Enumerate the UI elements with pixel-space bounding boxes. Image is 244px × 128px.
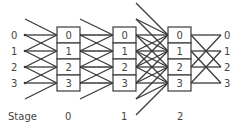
- stage0-cell-1: 1: [57, 43, 80, 59]
- input-label-0: 0: [11, 30, 17, 41]
- stage-label-0: 0: [65, 111, 71, 122]
- cell-label: 3: [177, 78, 183, 89]
- stage2-cell-1: 1: [168, 43, 191, 59]
- stage0-cell-0: 0: [57, 27, 80, 43]
- cell-label: 2: [66, 62, 72, 73]
- cell-label: 2: [122, 62, 128, 73]
- wire-stage1-row0: [80, 19, 113, 35]
- cell-label: 3: [122, 78, 128, 89]
- wire-stage2-row0: [136, 3, 168, 35]
- stage1-cell-1: 1: [113, 43, 136, 59]
- stage1-cell-2: 2: [113, 59, 136, 75]
- output-label-1: 1: [224, 46, 230, 57]
- input-label-2: 2: [11, 62, 17, 73]
- stage2-cell-3: 3: [168, 75, 191, 91]
- output-label-0: 0: [224, 30, 230, 41]
- output-label-3: 3: [224, 78, 230, 89]
- stage-cells: 012301230123: [57, 27, 191, 91]
- cell-label: 2: [177, 62, 183, 73]
- output-label-2: 2: [224, 62, 230, 73]
- cell-label: 0: [122, 30, 128, 41]
- stage-label-1: 1: [121, 111, 127, 122]
- network-diagram: 012301230123 0 1 2 3 0 1 2 3 Stage 0 1 2: [0, 0, 244, 128]
- stage2-cell-0: 0: [168, 27, 191, 43]
- input-label-3: 3: [11, 78, 17, 89]
- cell-label: 1: [66, 46, 72, 57]
- stage0-cell-3: 3: [57, 75, 80, 91]
- junction-dot: [24, 82, 27, 85]
- wire-stage2-row3: [136, 83, 168, 115]
- stage-label-2: 2: [177, 111, 183, 122]
- wire-stage1-row3: [80, 83, 113, 99]
- cell-label: 1: [177, 46, 183, 57]
- wire-stage0-row0: [25, 19, 57, 35]
- input-label-1: 1: [11, 46, 17, 57]
- stage1-cell-0: 0: [113, 27, 136, 43]
- wire-stage0-row3: [25, 83, 57, 99]
- cell-label: 1: [122, 46, 128, 57]
- cell-label: 0: [177, 30, 183, 41]
- cell-label: 0: [66, 30, 72, 41]
- cell-label: 3: [66, 78, 72, 89]
- stage2-cell-2: 2: [168, 59, 191, 75]
- wire-stage2-row3: [136, 83, 168, 99]
- stage0-cell-2: 2: [57, 59, 80, 75]
- stage1-cell-3: 3: [113, 75, 136, 91]
- wire-stage2-row0: [136, 19, 168, 35]
- stage-axis-label: Stage: [8, 111, 37, 122]
